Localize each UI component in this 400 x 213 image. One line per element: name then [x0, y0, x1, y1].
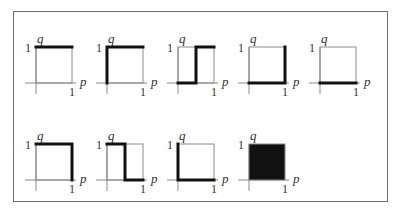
q-tick-label: 1	[167, 41, 173, 55]
p-tick-label: 1	[140, 85, 146, 99]
p-axis-label: p	[150, 74, 158, 89]
q-axis-label: q	[108, 128, 115, 143]
filled-square	[249, 144, 285, 180]
unit-square	[36, 144, 72, 180]
q-tick-label: 1	[167, 138, 173, 152]
panel-3: 1qp1	[167, 31, 229, 99]
q-tick-label: 1	[25, 41, 31, 55]
unit-square	[107, 47, 143, 83]
panel-6: 1qp1	[25, 128, 87, 196]
best-response-diagram: 1qp11qp11qp11qp11qp11qp11qp11qp11qp1	[0, 0, 400, 213]
best-response-line	[107, 47, 143, 83]
p-tick-label: 1	[211, 182, 217, 196]
p-tick-label: 1	[69, 182, 75, 196]
p-tick-label: 1	[69, 85, 75, 99]
panel-2: 1qp1	[96, 31, 158, 99]
q-tick-label: 1	[238, 138, 244, 152]
p-axis-label: p	[79, 74, 87, 89]
q-axis-label: q	[37, 31, 44, 46]
p-tick-label: 1	[211, 85, 217, 99]
q-tick-label: 1	[238, 41, 244, 55]
p-axis-label: p	[363, 74, 371, 89]
best-response-line	[36, 144, 72, 180]
best-response-line	[178, 144, 214, 180]
panel-5: 1qp1	[309, 31, 371, 99]
q-axis-label: q	[179, 128, 186, 143]
panel-4: 1qp1	[238, 31, 300, 99]
q-tick-label: 1	[309, 41, 315, 55]
unit-square	[36, 47, 72, 83]
q-axis-label: q	[321, 31, 328, 46]
q-axis-label: q	[250, 128, 257, 143]
q-axis-label: q	[37, 128, 44, 143]
p-axis-label: p	[292, 171, 300, 186]
p-axis-label: p	[79, 171, 87, 186]
best-response-line	[107, 144, 143, 180]
q-tick-label: 1	[96, 138, 102, 152]
panel-9: 1qp1	[238, 128, 300, 196]
p-axis-label: p	[221, 74, 229, 89]
unit-square	[178, 144, 214, 180]
panel-8: 1qp1	[167, 128, 229, 196]
unit-square	[320, 47, 356, 83]
q-tick-label: 1	[25, 138, 31, 152]
p-tick-label: 1	[282, 182, 288, 196]
q-tick-label: 1	[96, 41, 102, 55]
best-response-line	[178, 47, 214, 83]
p-axis-label: p	[150, 171, 158, 186]
unit-square	[249, 47, 285, 83]
panel-7: 1qp1	[96, 128, 158, 196]
p-tick-label: 1	[282, 85, 288, 99]
q-axis-label: q	[108, 31, 115, 46]
q-axis-label: q	[179, 31, 186, 46]
p-axis-label: p	[292, 74, 300, 89]
p-tick-label: 1	[353, 85, 359, 99]
best-response-line	[249, 47, 285, 83]
panel-1: 1qp1	[25, 31, 87, 99]
q-axis-label: q	[250, 31, 257, 46]
p-tick-label: 1	[140, 182, 146, 196]
p-axis-label: p	[221, 171, 229, 186]
